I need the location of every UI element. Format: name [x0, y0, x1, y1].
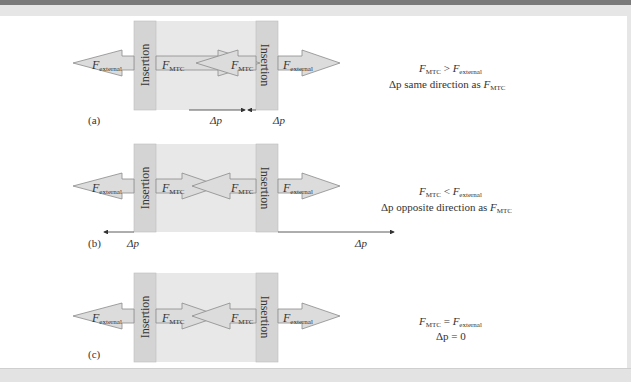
condition-line-1: FMTC < Fexternal	[418, 185, 482, 199]
condition-line-2: Δp opposite direction as FMTC	[381, 201, 512, 215]
panel-label-b: (b)	[88, 237, 101, 250]
delta-p-label-left: Δp	[126, 237, 139, 249]
left-insertion-label: Insertion	[138, 44, 152, 87]
right-insertion-label: Insertion	[258, 296, 272, 339]
condition-line-2: Δp same direction as FMTC	[389, 78, 506, 92]
panel-b: Insertion Insertion Fexternal FMTC FMTC …	[73, 144, 512, 250]
panel-a: Insertion Insertion Fexternal FMTC FMTC …	[73, 21, 506, 127]
panel-label-a: (a)	[88, 114, 101, 127]
right-insertion-label: Insertion	[258, 44, 272, 87]
condition-line-1: FMTC = Fexternal	[418, 315, 482, 329]
delta-p-label-left: Δp	[209, 114, 222, 126]
condition-line-1: FMTC > Fexternal	[418, 62, 482, 76]
condition-line-2: Δp = 0	[436, 330, 466, 342]
delta-p-label-right: Δp	[354, 237, 367, 249]
panel-c: Insertion Insertion Fexternal FMTC FMTC …	[73, 273, 482, 362]
panel-label-c: (c)	[88, 348, 101, 361]
left-insertion-label: Insertion	[138, 167, 152, 210]
left-insertion-label: Insertion	[138, 296, 152, 339]
delta-p-label-right: Δp	[272, 114, 285, 126]
right-insertion-label: Insertion	[258, 167, 272, 210]
